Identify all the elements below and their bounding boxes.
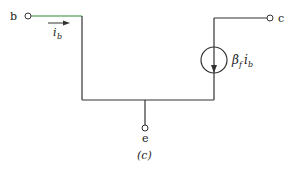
svg-text:b: b xyxy=(248,60,253,69)
source-current-label: β f i b xyxy=(231,53,253,69)
emitter-terminal-icon xyxy=(142,125,148,131)
base-current-label: i b xyxy=(53,26,62,41)
current-source-arrow-icon xyxy=(211,65,217,73)
base-label: b xyxy=(10,10,17,23)
base-current-arrow-icon xyxy=(63,21,70,26)
emitter-label: e xyxy=(142,132,149,145)
svg-text:i: i xyxy=(53,26,57,39)
svg-text:b: b xyxy=(57,32,62,41)
figure-caption: (c) xyxy=(137,149,152,162)
schematic: b c e i b β f i b (c) xyxy=(0,0,292,169)
circuit-diagram: b c e i b β f i b (c) xyxy=(0,0,292,169)
base-terminal-icon xyxy=(25,13,31,19)
collector-label: c xyxy=(278,12,284,25)
svg-text:β: β xyxy=(231,53,239,67)
collector-terminal-icon xyxy=(267,15,273,21)
